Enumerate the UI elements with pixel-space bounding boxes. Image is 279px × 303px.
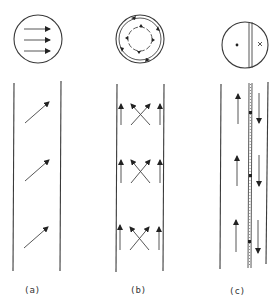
rotation-arrow-icon	[139, 24, 143, 27]
panel-c-left-wall	[220, 84, 221, 269]
panel-a-right-wall	[60, 81, 61, 271]
panel-c-label: (c)	[229, 286, 245, 296]
out-of-page-dot-icon	[236, 44, 239, 47]
wall-marker	[249, 174, 252, 177]
panel-a-left-wall	[13, 83, 14, 271]
panel-a-circle-icon	[14, 15, 62, 63]
panel-b: (b)	[116, 15, 164, 295]
rotation-arrow-icon	[152, 38, 155, 42]
panel-c-right-wall	[266, 82, 268, 264]
panel-c: (c)	[220, 22, 268, 296]
rotation-arrow-icon	[137, 51, 141, 54]
diagonal-arrow-icon	[24, 227, 48, 248]
wall-marker	[248, 240, 251, 243]
rotation-arrow-icon	[125, 36, 128, 40]
panel-c-circle-icon	[222, 22, 268, 68]
wall-marker	[249, 111, 252, 114]
panel-a-label: (a)	[24, 285, 40, 295]
diagonal-arrow-icon	[25, 160, 49, 181]
into-page-cross-icon	[258, 42, 262, 46]
panel-b-label: (b)	[130, 285, 146, 295]
panel-a: (a)	[13, 15, 62, 295]
panel-b-circle-icon	[116, 15, 164, 63]
panel-b-right-wall	[163, 84, 164, 271]
panel-c-center-wall	[248, 83, 252, 268]
diagonal-arrow-icon	[25, 102, 49, 123]
panel-b-left-wall	[116, 84, 117, 272]
diagram-canvas: (a)	[0, 0, 279, 303]
